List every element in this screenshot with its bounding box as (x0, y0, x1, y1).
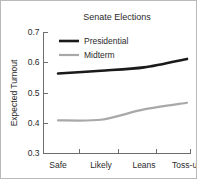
legend-label-presidential: Presidential (84, 36, 129, 46)
y-axis-ticks: 0.30.40.50.60.7 (28, 27, 48, 158)
series-line-presidential (58, 59, 187, 74)
chart-figure: Senate Elections Expected Turnout 0.30.4… (0, 0, 197, 179)
chart-canvas: Senate Elections Expected Turnout 0.30.4… (1, 1, 197, 179)
y-axis-label: Expected Turnout (9, 59, 19, 126)
y-tick-label: 0.4 (28, 118, 40, 128)
x-tick-label-toss-up: Toss-up (172, 160, 197, 170)
series-line-midterm (58, 103, 187, 121)
y-tick-label: 0.6 (28, 57, 40, 67)
x-tick-label-leans: Leans (132, 160, 155, 170)
legend-label-midterm: Midterm (84, 50, 115, 60)
y-tick-label: 0.5 (28, 88, 40, 98)
chart-title: Senate Elections (83, 12, 151, 22)
x-tick-label-safe: Safe (49, 160, 67, 170)
y-tick-label: 0.7 (28, 27, 40, 37)
x-tick-label-likely: Likely (90, 160, 112, 170)
y-tick-label: 0.3 (28, 148, 40, 158)
series-group (58, 59, 187, 121)
chart-legend: PresidentialMidterm (59, 36, 129, 60)
x-axis-ticks: SafeLikelyLeansToss-up (44, 149, 198, 171)
